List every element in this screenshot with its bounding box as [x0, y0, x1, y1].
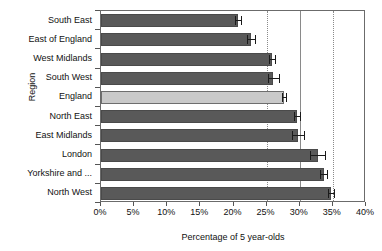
bar-london: [101, 149, 318, 162]
bar-north-west: [101, 187, 331, 200]
error-cap-low: [292, 131, 293, 140]
error-cap-low: [247, 35, 248, 44]
x-tick-30: [299, 202, 300, 206]
x-tick-10: [166, 202, 167, 206]
x-tick-5: [133, 202, 134, 206]
error-cap-low: [282, 93, 283, 102]
y-axis-label-9: North West: [0, 187, 92, 197]
error-cap-low: [235, 16, 236, 25]
y-axis-label-6: East Midlands: [0, 130, 92, 140]
x-tick-0: [100, 202, 101, 206]
bar-yorkshire-and: [101, 168, 324, 181]
bar-row: [101, 129, 366, 142]
error-bar: [310, 155, 325, 156]
bar-row: [101, 91, 366, 104]
x-axis-title: Percentage of 5 year-olds: [100, 232, 366, 242]
x-tick-label-40: 40%: [345, 207, 382, 217]
error-cap-low: [294, 112, 295, 121]
bar-east-midlands: [101, 129, 298, 142]
bar-south-west: [101, 72, 273, 85]
x-axis-tick-labels: 0%5%10%15%20%25%30%35%40%: [0, 207, 382, 221]
error-cap-low: [269, 55, 270, 64]
bar-row: [101, 53, 366, 66]
y-axis-label-7: London: [0, 149, 92, 159]
error-cap-low: [328, 189, 329, 198]
x-tick-35: [332, 202, 333, 206]
bar-row: [101, 14, 366, 27]
y-axis-label-5: North East: [0, 111, 92, 121]
bar-north-east: [101, 110, 297, 123]
bar-east-of-england: [101, 33, 251, 46]
error-cap-high: [334, 189, 335, 198]
error-cap-low: [268, 74, 269, 83]
y-axis-label-8: Yorkshire and ...: [0, 168, 92, 178]
bar-row: [101, 110, 366, 123]
y-axis-label-2: West Midlands: [0, 53, 92, 63]
bar-chart: Region South EastEast of EnglandWest Mid…: [0, 0, 382, 251]
x-tick-20: [233, 202, 234, 206]
bar-west-midlands: [101, 53, 272, 66]
bar-row: [101, 149, 366, 162]
x-tick-40: [365, 202, 366, 206]
y-axis-label-4: England: [0, 91, 92, 101]
error-bar: [292, 135, 304, 136]
error-cap-high: [275, 55, 276, 64]
error-cap-high: [255, 35, 256, 44]
error-cap-high: [286, 93, 287, 102]
error-cap-high: [279, 74, 280, 83]
error-cap-high: [325, 151, 326, 160]
error-cap-high: [300, 112, 301, 121]
bar-row: [101, 168, 366, 181]
y-axis-label-3: South West: [0, 72, 92, 82]
bar-row: [101, 33, 366, 46]
bar-row: [101, 187, 366, 200]
error-cap-high: [241, 16, 242, 25]
error-bar: [247, 39, 255, 40]
bar-england: [101, 91, 284, 104]
bar-row: [101, 72, 366, 85]
bar-south-east: [101, 14, 238, 27]
error-cap-low: [310, 151, 311, 160]
y-axis-category-labels: South EastEast of EnglandWest MidlandsSo…: [0, 10, 96, 202]
y-axis-label-1: East of England: [0, 34, 92, 44]
error-bar: [268, 78, 279, 79]
error-cap-high: [327, 170, 328, 179]
x-tick-15: [199, 202, 200, 206]
x-tick-25: [266, 202, 267, 206]
plot-area: [100, 10, 365, 202]
y-axis-label-0: South East: [0, 15, 92, 25]
error-cap-low: [320, 170, 321, 179]
error-cap-high: [304, 131, 305, 140]
